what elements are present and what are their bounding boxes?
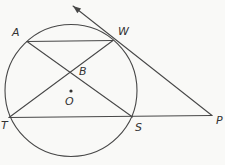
geometry-diagram: AWBTSPO [0,0,225,165]
chord-AW [27,41,113,42]
center-dot [69,89,72,92]
label-B: B [79,65,87,78]
label-S: S [135,121,142,134]
tangent-ray-through-W [73,6,212,116]
label-T: T [1,119,9,132]
diagram-canvas: AWBTSPO [0,0,225,165]
chord-AS [27,42,133,118]
label-O: O [65,95,74,108]
secant-TSP [9,116,212,118]
label-P: P [216,114,223,127]
label-W: W [118,25,130,38]
chord-TW [9,41,113,118]
arrowhead-icon [73,6,81,13]
label-A: A [11,26,20,39]
